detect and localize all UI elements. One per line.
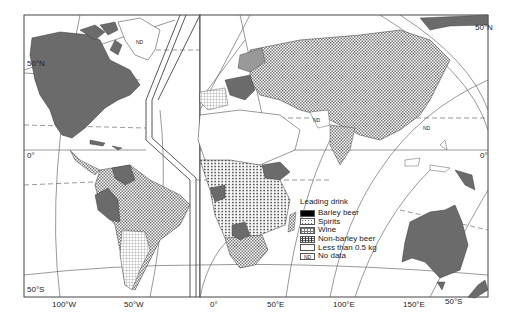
lat-label-50s-left: 50°S bbox=[27, 286, 44, 294]
lat-label-0-left: 0° bbox=[27, 152, 35, 160]
north-africa bbox=[198, 110, 300, 165]
wine-swatch bbox=[300, 227, 315, 234]
lon-label-50w: 50°W bbox=[124, 301, 144, 309]
madagascar bbox=[288, 212, 296, 232]
nd-label-greenland: ND bbox=[136, 39, 144, 45]
legend-item-no-data: ND No data bbox=[300, 252, 377, 261]
north-america bbox=[30, 32, 140, 138]
new-guinea bbox=[455, 170, 475, 190]
no-data-swatch: ND bbox=[300, 253, 315, 260]
caribbean bbox=[90, 140, 122, 150]
legend-title: Leading drink bbox=[300, 198, 377, 206]
australia bbox=[402, 205, 468, 278]
non-barley-beer-swatch bbox=[300, 236, 315, 243]
south-america bbox=[95, 165, 190, 290]
lat-label-50n-right: 50°N bbox=[475, 24, 493, 32]
projection-interruption bbox=[146, 15, 200, 297]
central-america bbox=[70, 150, 100, 175]
spirits-swatch bbox=[300, 218, 315, 225]
lat-label-50s-right: 50°S bbox=[445, 298, 462, 306]
lat-label-0-right: 0° bbox=[480, 152, 488, 160]
legend-item-spirits: Spirits bbox=[300, 218, 377, 227]
lon-label-100e: 100°E bbox=[333, 301, 355, 309]
lon-label-0: 0° bbox=[210, 301, 218, 309]
nd-label-middle-east: ND bbox=[313, 117, 321, 123]
lat-label-50n-left: 50°N bbox=[27, 60, 45, 68]
se-asia-islands bbox=[405, 140, 450, 172]
legend: Leading drink Barley beer Spirits Wine N… bbox=[300, 198, 377, 261]
lon-label-150e: 150°E bbox=[403, 301, 425, 309]
lon-label-50e: 50°E bbox=[267, 301, 284, 309]
ethiopia bbox=[262, 162, 290, 180]
india-spirits bbox=[330, 125, 355, 165]
new-zealand bbox=[468, 280, 488, 298]
legend-label: No data bbox=[318, 252, 346, 260]
barley-beer-swatch bbox=[300, 210, 315, 217]
lon-label-100w: 100°W bbox=[52, 301, 76, 309]
tasmania bbox=[437, 282, 445, 290]
nd-label-asia: ND bbox=[423, 125, 431, 131]
legend-label: Non-barley beer bbox=[318, 235, 375, 243]
less-than-half-kg-swatch bbox=[300, 244, 315, 251]
world-map: ND ND ND bbox=[0, 0, 509, 322]
